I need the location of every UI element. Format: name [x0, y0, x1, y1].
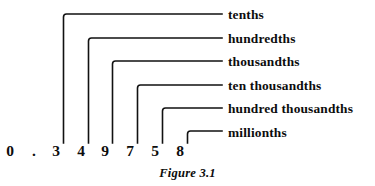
digit-ones: 0 — [2, 143, 18, 159]
label-millionths: millionths — [228, 126, 287, 139]
label-hundred-thousandths: hundred thousandths — [228, 102, 353, 115]
digit-hundred-thousandths: 5 — [147, 143, 163, 159]
decimal-point: . — [26, 143, 42, 159]
label-ten-thousandths: ten thousandths — [228, 79, 321, 92]
label-thousandths: thousandths — [228, 55, 300, 68]
digit-ten-thousandths: 7 — [122, 143, 138, 159]
bracket-millionths — [188, 131, 223, 143]
label-hundredths: hundredths — [228, 32, 296, 45]
bracket-hundred-thousandths — [163, 108, 223, 143]
digit-hundredths: 4 — [73, 143, 89, 159]
bracket-ten-thousandths — [138, 85, 223, 143]
digit-millionths: 8 — [172, 143, 188, 159]
bracket-tenths — [64, 14, 223, 143]
bracket-hundredths — [89, 38, 223, 143]
digit-thousandths: 9 — [97, 143, 113, 159]
bracket-group — [64, 14, 223, 143]
bracket-thousandths — [113, 61, 223, 143]
place-value-figure: 0 . 3 4 9 7 5 8 tenths hundredths thousa… — [0, 0, 375, 186]
label-tenths: tenths — [228, 8, 264, 21]
digit-tenths: 3 — [48, 143, 64, 159]
figure-caption: Figure 3.1 — [0, 166, 375, 181]
